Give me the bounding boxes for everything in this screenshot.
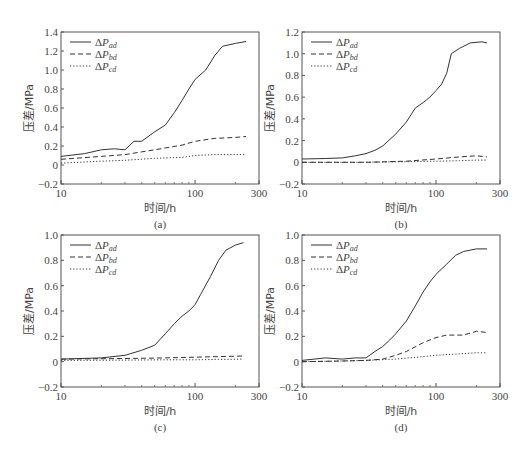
y-tick-label: 0.4 [285, 305, 299, 317]
series-line-dashed [302, 331, 487, 361]
panel-label: (d) [395, 421, 408, 434]
x-tick-label: 10 [56, 187, 68, 199]
x-tick-label: 10 [297, 390, 309, 402]
y-tick-label: 0.4 [285, 113, 299, 125]
y-tick-label: 0.6 [285, 280, 299, 292]
x-axis-label: 时间/h [385, 405, 418, 418]
y-tick-label: 1.0 [44, 229, 58, 241]
x-tick-label: 300 [492, 187, 509, 199]
y-tick-label: 0.6 [285, 91, 299, 103]
plot-frame [61, 32, 259, 184]
x-axis-label: 时间/h [144, 405, 177, 418]
series-line-dotted [302, 353, 487, 362]
x-axis-label: 时间/h [144, 202, 177, 215]
x-tick-label: 100 [428, 187, 445, 199]
y-tick-label: 1.0 [285, 229, 299, 241]
panel-label: (a) [154, 218, 167, 231]
x-tick-label: 100 [187, 187, 204, 199]
y-tick-label: 0.2 [285, 330, 299, 342]
y-axis-label: 压差/MPa [263, 287, 277, 335]
legend-entry: ΔPcd [336, 263, 358, 277]
chart-panel-a: −0.200.20.40.60.81.01.21.410100300时间/h压差… [22, 26, 268, 231]
y-tick-label: 1.2 [285, 26, 299, 38]
y-tick-label: 0.8 [44, 83, 58, 95]
y-axis-label: 压差/MPa [263, 84, 277, 132]
x-tick-label: 100 [428, 390, 445, 402]
y-tick-label: 0.6 [44, 280, 58, 292]
chart-panel-d: −0.200.20.40.60.81.010100300时间/h压差/MPa(d… [263, 229, 509, 434]
y-tick-label: 0 [294, 156, 300, 168]
x-tick-label: 300 [251, 390, 268, 402]
chart-panel-c: −0.200.20.40.60.81.010100300时间/h压差/MPa(c… [22, 229, 268, 434]
y-tick-label: 0.8 [285, 254, 299, 266]
x-tick-label: 10 [56, 390, 68, 402]
y-tick-label: 0.2 [44, 140, 58, 152]
plot-frame [61, 235, 259, 387]
series-line-solid [302, 249, 487, 361]
x-tick-label: 100 [187, 390, 204, 402]
series-line-dashed [61, 137, 246, 160]
x-tick-label: 10 [297, 187, 309, 199]
y-axis-label: 压差/MPa [22, 84, 36, 132]
y-tick-label: 0.8 [44, 254, 58, 266]
y-tick-label: 1.2 [44, 45, 58, 57]
y-tick-label: 0.6 [44, 102, 58, 114]
y-tick-label: 0 [53, 356, 59, 368]
chart-panel-b: −0.200.20.40.60.81.01.210100300时间/h压差/MP… [263, 26, 509, 231]
y-tick-label: 0.2 [44, 330, 58, 342]
panel-label: (b) [395, 218, 408, 231]
figure-canvas: −0.200.20.40.60.81.01.21.410100300时间/h压差… [0, 0, 532, 455]
y-tick-label: 0.2 [285, 135, 299, 147]
y-tick-label: 1.0 [285, 48, 299, 60]
x-tick-label: 300 [251, 187, 268, 199]
y-axis-label: 压差/MPa [22, 287, 36, 335]
series-line-dashed [302, 156, 487, 163]
y-tick-label: 0.4 [44, 121, 58, 133]
legend-entry: ΔPcd [95, 60, 117, 74]
x-axis-label: 时间/h [385, 202, 418, 215]
legend-entry: ΔPcd [336, 60, 358, 74]
panel-label: (c) [154, 421, 167, 434]
y-tick-label: 1.0 [44, 64, 58, 76]
series-line-solid [302, 42, 487, 159]
series-line-dashed [61, 356, 244, 359]
series-line-solid [61, 243, 244, 360]
series-line-solid [61, 42, 246, 157]
x-tick-label: 300 [492, 390, 509, 402]
y-tick-label: 0 [294, 356, 300, 368]
y-tick-label: 1.4 [44, 26, 58, 38]
y-tick-label: 0.4 [44, 305, 58, 317]
y-tick-label: 0.8 [285, 69, 299, 81]
legend-entry: ΔPcd [95, 263, 117, 277]
plot-frame [302, 235, 500, 387]
y-tick-label: 0 [53, 159, 59, 171]
series-line-dotted [61, 155, 246, 164]
